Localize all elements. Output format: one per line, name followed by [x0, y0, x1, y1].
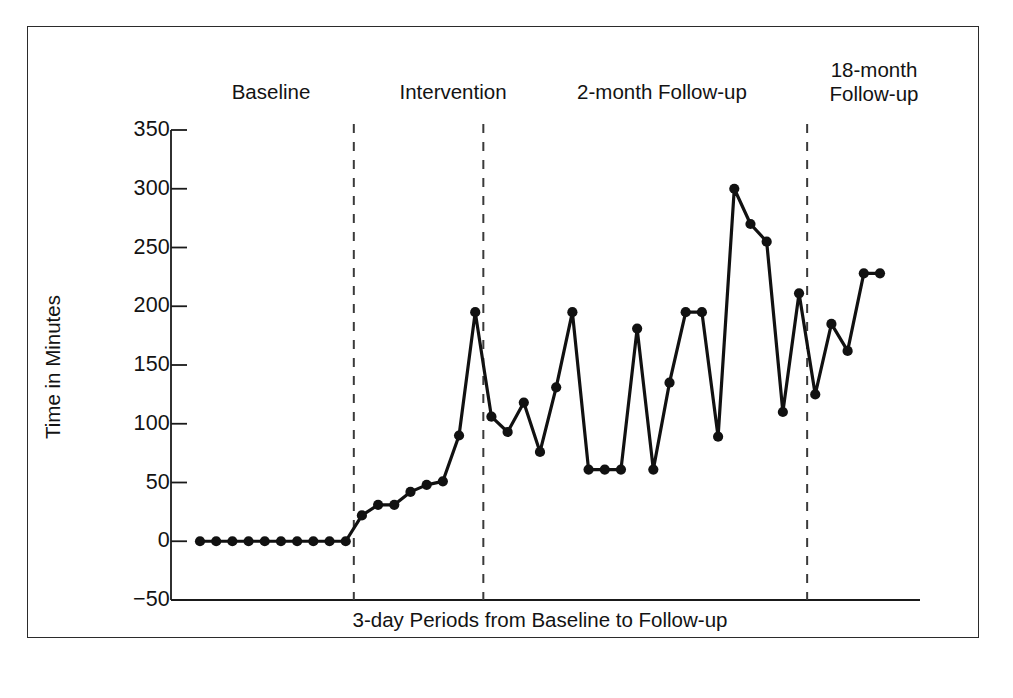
y-axis-tick-label: 300: [108, 178, 170, 200]
phase-label-two-month-follow-up: 2-month Follow-up: [524, 80, 800, 104]
y-axis-tick-label: 250: [108, 237, 170, 259]
y-axis-tick-label: 200: [108, 295, 170, 317]
y-axis-tick-label: 50: [108, 472, 170, 494]
y-axis-tick-label: 0: [108, 530, 170, 552]
y-axis-tick-labels: 350300250200150100500−50: [108, 0, 170, 698]
y-axis-title: Time in Minutes: [41, 252, 65, 482]
y-axis-tick-label: −50: [108, 589, 170, 611]
x-axis-title: 3-day Periods from Baseline to Follow-up: [180, 608, 900, 632]
phase-label-baseline: Baseline: [196, 80, 346, 104]
phase-label-eighteen-month-follow-up: 18-month Follow-up: [798, 58, 950, 106]
y-axis-tick-label: 350: [108, 119, 170, 141]
y-axis-tick-label: 100: [108, 413, 170, 435]
y-axis-tick-label: 150: [108, 354, 170, 376]
phase-label-intervention: Intervention: [360, 80, 546, 104]
figure-container: Baseline Intervention 2-month Follow-up …: [0, 0, 1013, 698]
